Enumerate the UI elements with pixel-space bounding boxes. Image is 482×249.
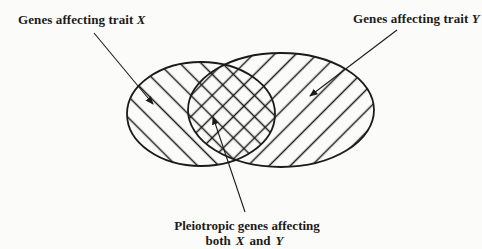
pleiotropy-venn-figure: Genes affecting trait X Genes affecting … (0, 0, 482, 249)
label-x-text: Genes affecting trait (18, 12, 133, 27)
caption-line1: Pleiotropic genes affecting (146, 218, 348, 233)
label-genes-affecting-trait-y: Genes affecting trait Y (353, 11, 480, 27)
caption-both: both (206, 233, 231, 248)
label-genes-affecting-trait-x: Genes affecting trait X (18, 12, 146, 28)
label-y-text: Genes affecting trait (353, 11, 468, 26)
label-y-trait-letter: Y (472, 11, 480, 26)
caption-line2: bothXandY (146, 233, 348, 248)
caption-y-letter: Y (275, 233, 283, 248)
venn-diagram (0, 0, 482, 249)
caption-and: and (250, 233, 271, 248)
caption-x-letter: X (236, 233, 245, 248)
caption-pleiotropic-genes: Pleiotropic genes affecting bothXandY (146, 218, 348, 248)
arrow-to-left-set-icon (94, 33, 153, 104)
label-x-trait-letter: X (137, 12, 146, 27)
